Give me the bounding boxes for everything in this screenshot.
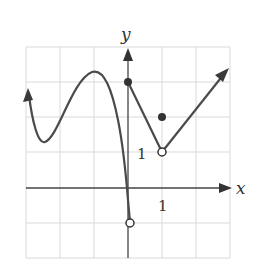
- x-axis: [26, 183, 232, 193]
- open-point-0-neg1: [126, 219, 134, 227]
- right-arrow-icon: [215, 68, 229, 82]
- ray-right: [162, 74, 224, 152]
- y-tick-label: 1: [137, 145, 147, 163]
- x-tick-label: 1: [158, 197, 168, 215]
- curve-left: [29, 72, 130, 222]
- function-graph: x y 1 1: [0, 0, 257, 273]
- x-axis-label: x: [236, 178, 246, 198]
- closed-point-1-2: [158, 113, 166, 121]
- open-point-1-1: [158, 148, 166, 156]
- y-axis-label: y: [120, 24, 131, 44]
- closed-point-0-3: [124, 78, 132, 86]
- left-arrow-icon: [23, 88, 33, 102]
